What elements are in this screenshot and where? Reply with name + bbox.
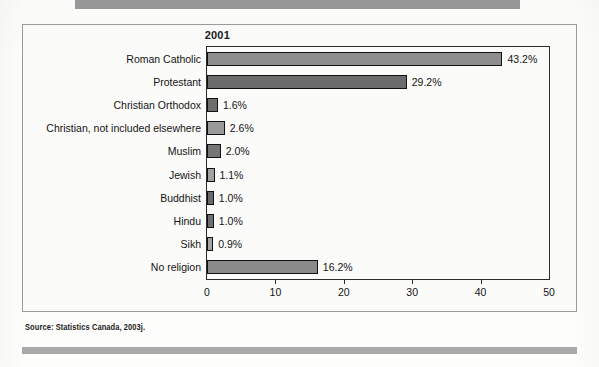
bar-value-label: 1.0% xyxy=(219,216,243,227)
bar-category-label: No religion xyxy=(151,262,201,273)
x-axis-tick-label: 30 xyxy=(406,286,418,298)
x-axis-tick xyxy=(481,279,482,284)
bar xyxy=(207,260,318,274)
bar-value-label: 16.2% xyxy=(323,262,353,273)
bar xyxy=(207,75,407,89)
x-axis-tick xyxy=(275,279,276,284)
bar-row: Christian Orthodox1.6% xyxy=(207,93,549,116)
bar xyxy=(207,98,218,112)
page-bottom-rule xyxy=(22,347,577,354)
bar-row: Hindu1.0% xyxy=(207,209,549,232)
bar-value-label: 1.0% xyxy=(219,193,243,204)
bar-category-label: Hindu xyxy=(174,216,201,227)
x-axis-tick xyxy=(344,279,345,284)
bar-category-label: Roman Catholic xyxy=(126,53,201,64)
bar-category-label: Christian Orthodox xyxy=(113,100,201,111)
x-axis-tick-label: 40 xyxy=(475,286,487,298)
x-axis-tick xyxy=(412,279,413,284)
bar-row: No religion16.2% xyxy=(207,256,549,279)
x-axis-tick-label: 10 xyxy=(270,286,282,298)
bar xyxy=(207,144,221,158)
bar-row: Jewish1.1% xyxy=(207,163,549,186)
bar-row: Protestant29.2% xyxy=(207,70,549,93)
chart-title: 2001 xyxy=(175,29,230,41)
bar-row: Roman Catholic43.2% xyxy=(207,47,549,70)
bar-value-label: 1.1% xyxy=(220,169,244,180)
bar xyxy=(207,52,502,66)
bar-category-label: Christian, not included elsewhere xyxy=(46,123,201,134)
bar-value-label: 2.6% xyxy=(230,123,254,134)
bar-row: Buddhist1.0% xyxy=(207,186,549,209)
bar xyxy=(207,237,213,251)
x-axis-tick-label: 50 xyxy=(543,286,555,298)
bar-row: Muslim2.0% xyxy=(207,140,549,163)
bar-row: Christian, not included elsewhere2.6% xyxy=(207,117,549,140)
x-axis-tick-label: 20 xyxy=(338,286,350,298)
bar-value-label: 2.0% xyxy=(226,146,250,157)
bar-category-label: Protestant xyxy=(153,77,201,88)
x-axis-tick-label: 0 xyxy=(204,286,210,298)
bar-category-label: Sikh xyxy=(181,239,201,250)
bar xyxy=(207,121,225,135)
bar-value-label: 43.2% xyxy=(507,53,537,64)
bar xyxy=(207,191,214,205)
bar xyxy=(207,168,215,182)
figure-box: 2001 Roman Catholic43.2%Protestant29.2%C… xyxy=(22,24,577,312)
bar-value-label: 29.2% xyxy=(412,77,442,88)
bar-category-label: Muslim xyxy=(168,146,201,157)
source-note: Source: Statistics Canada, 2003j. xyxy=(25,322,145,332)
bar-row: Sikh0.9% xyxy=(207,233,549,256)
bar-value-label: 1.6% xyxy=(223,100,247,111)
bar-category-label: Buddhist xyxy=(160,193,201,204)
bar-value-label: 0.9% xyxy=(218,239,242,250)
plot-area: Roman Catholic43.2%Protestant29.2%Christ… xyxy=(206,46,550,280)
page-running-header-bar xyxy=(75,0,520,9)
bar xyxy=(207,214,214,228)
bar-category-label: Jewish xyxy=(169,169,201,180)
